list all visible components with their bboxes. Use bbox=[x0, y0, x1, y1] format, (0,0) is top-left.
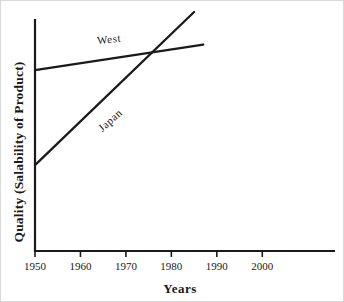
series-label-west: West bbox=[96, 32, 121, 46]
x-tick-label: 1960 bbox=[69, 260, 92, 272]
series-line-west bbox=[35, 45, 203, 71]
plot-area: 195019601970198019902000 bbox=[1, 1, 344, 302]
x-tick-label: 1980 bbox=[160, 260, 183, 272]
x-tick-label: 1950 bbox=[24, 260, 47, 272]
y-axis-title: Quality (Salability of Product) bbox=[11, 61, 27, 242]
x-axis-title: Years bbox=[163, 281, 197, 297]
x-tick-label: 1970 bbox=[115, 260, 138, 272]
axes-lines bbox=[35, 19, 335, 251]
x-tick-label: 1990 bbox=[206, 260, 229, 272]
quality-vs-years-chart: 195019601970198019902000 Quality (Salabi… bbox=[0, 0, 344, 302]
x-tick-label: 2000 bbox=[251, 260, 274, 272]
